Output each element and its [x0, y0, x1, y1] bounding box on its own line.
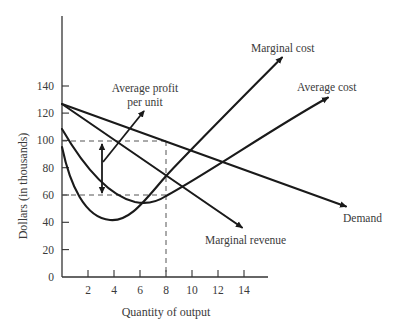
y-tick-label: 140	[37, 80, 55, 92]
label-marginal-cost: Marginal cost	[251, 42, 315, 55]
y-tick-label: 40	[43, 216, 55, 228]
demand-curve	[62, 104, 346, 207]
x-tick-label: 14	[238, 284, 250, 296]
x-axis-title: Quantity of output	[122, 305, 211, 319]
label-marginal-revenue: Marginal revenue	[205, 234, 286, 247]
x-tick-label: 4	[111, 284, 117, 296]
reference-lines	[62, 141, 166, 277]
label-demand: Demand	[343, 212, 382, 224]
y-tick-label: 0	[48, 271, 54, 283]
x-tick-label: 10	[186, 284, 198, 296]
y-tick-label: 80	[43, 162, 55, 174]
chart-svg: 0 20 40 60 80 100 120 140 2 4 6 8 10 12 …	[0, 0, 402, 334]
x-tick-label: 6	[137, 284, 143, 296]
label-avg-profit-line2: per unit	[127, 96, 163, 109]
x-tick-label: 8	[163, 284, 169, 296]
x-tick-label: 12	[212, 284, 224, 296]
economics-chart: 0 20 40 60 80 100 120 140 2 4 6 8 10 12 …	[0, 0, 402, 334]
y-tick-label: 100	[37, 134, 55, 146]
x-tick-labels: 2 4 6 8 10 12 14	[85, 284, 250, 296]
label-avg-profit-line1: Average profit	[112, 82, 179, 95]
y-axis-title: Dollars (in thousands)	[16, 133, 30, 240]
label-average-cost: Average cost	[297, 81, 357, 94]
x-tick-label: 2	[85, 284, 91, 296]
y-tick-label: 60	[43, 189, 55, 201]
y-tick-label: 20	[43, 244, 55, 256]
y-tick-label: 120	[37, 107, 55, 119]
y-tick-labels: 0 20 40 60 80 100 120 140	[37, 80, 55, 283]
curve-labels: Marginal cost Average cost Average profi…	[112, 42, 382, 247]
